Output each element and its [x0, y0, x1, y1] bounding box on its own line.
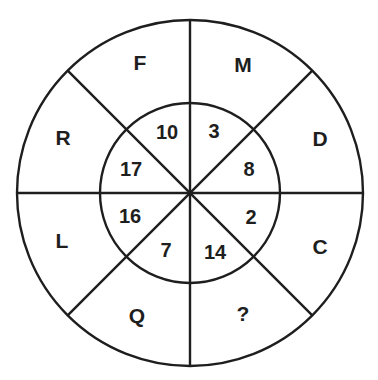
inner-segment-left-lower: 16 — [119, 205, 141, 227]
inner-segment-top-left: 10 — [156, 121, 178, 143]
inner-segment-bottom-right: 14 — [204, 241, 227, 263]
inner-segment-left-upper: 17 — [120, 158, 142, 180]
outer-segment-left-lower: L — [56, 229, 69, 252]
outer-segment-bottom-right: ? — [237, 302, 250, 325]
inner-segment-right-upper: 8 — [243, 158, 254, 180]
outer-segment-right-lower: C — [312, 235, 327, 258]
outer-segment-right-upper: D — [312, 127, 327, 150]
outer-segment-top-left: F — [134, 51, 147, 74]
inner-segment-top-right: 3 — [208, 120, 219, 142]
inner-segment-bottom-left: 7 — [160, 239, 171, 261]
puzzle-diagram: F M D C ? Q L R 10 3 8 2 14 7 16 17 — [0, 0, 378, 380]
inner-segment-right-lower: 2 — [245, 206, 256, 228]
outer-segment-bottom-left: Q — [129, 304, 145, 327]
outer-segment-top-right: M — [234, 53, 252, 76]
outer-segment-left-upper: R — [55, 126, 70, 149]
